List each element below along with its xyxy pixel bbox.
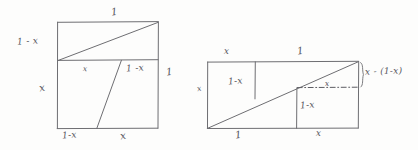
- right-label-interior-upper: 1-x: [228, 75, 243, 86]
- left-label-left-upper: 1 - x: [17, 35, 39, 46]
- left-label-interior-right: 1 -x: [126, 62, 145, 73]
- left-label-bottom-left: 1-x: [62, 129, 77, 140]
- right-label-dashed-line: x: [325, 79, 330, 88]
- right-label-interior-lower: 1-x: [300, 99, 315, 110]
- left-square-diagonal: [58, 22, 158, 60]
- left-square-horizontal-divider: [57, 60, 158, 61]
- left-label-top: 1: [110, 6, 118, 18]
- right-edge-bracket: [361, 63, 364, 87]
- left-square-slant-cut: [97, 60, 122, 128]
- left-label-interior-left: x: [83, 64, 88, 73]
- right-label-bottom-right: x: [316, 128, 322, 138]
- right-rectangle-diagonal: [208, 62, 358, 128]
- diagram-canvas: [0, 0, 418, 150]
- right-label-left-side: x: [196, 84, 202, 94]
- right-label-top-right: 1: [296, 45, 304, 57]
- left-label-right-side: 1: [165, 66, 173, 78]
- right-label-bottom-left: 1: [234, 129, 242, 141]
- diagram-sheet: 1 1 - x x 1 x 1 -x 1-x x x 1 x 1-x 1-x x…: [0, 0, 418, 150]
- left-square-outline: [57, 22, 158, 129]
- right-label-top-left: x: [224, 46, 230, 56]
- right-label-bracket: x - (1-x): [365, 65, 403, 76]
